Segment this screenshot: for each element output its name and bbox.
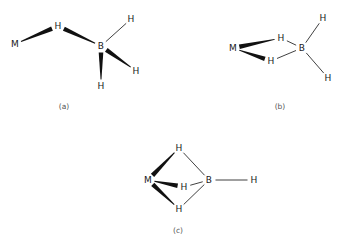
bond-b-H-B-2	[287, 41, 296, 45]
atom-label-a-Hb: H	[55, 21, 62, 31]
atom-label-b-Ht2: H	[325, 73, 332, 83]
bond-layer	[21, 23, 324, 205]
atom-label-a-B: B	[98, 41, 104, 51]
caption-c: (c)	[173, 226, 183, 235]
bond-b-M-H-0	[239, 39, 275, 49]
bond-c-H-B-4	[190, 182, 202, 185]
bond-b-M-H-1	[239, 50, 266, 61]
bond-b-H-B-3	[277, 51, 296, 59]
bond-c-H-B-3	[183, 153, 204, 176]
atom-label-c-Ht1: H	[251, 175, 258, 185]
atom-label-c-Hb2: H	[181, 182, 188, 192]
caption-a: (a)	[59, 102, 70, 111]
bond-a-B-H-4	[99, 53, 104, 80]
atom-label-c-B: B	[206, 175, 212, 185]
caption-b: (b)	[275, 102, 286, 111]
bond-b-B-H-4	[306, 23, 320, 42]
bond-a-H-B-1	[63, 27, 95, 44]
atom-label-b-M: M	[229, 43, 237, 53]
bond-b-B-H-5	[306, 53, 323, 73]
atom-label-a-Ht2: H	[133, 66, 140, 76]
atom-label-b-Hb2: H	[268, 56, 275, 66]
atom-label-a-Ht3: H	[98, 81, 105, 91]
bond-a-B-H-3	[105, 48, 131, 68]
atom-label-b-B: B	[299, 43, 305, 53]
atom-label-a-Ht1: H	[128, 14, 135, 24]
caption-layer: (a)(b)(c)	[59, 102, 286, 235]
bond-c-M-H-0	[151, 152, 175, 177]
atom-label-b-Ht1: H	[320, 13, 327, 23]
structure-canvas: MHBHHHMHHBHHMHHHBH (a)(b)(c)	[0, 0, 347, 245]
atom-label-c-Hb3: H	[176, 204, 183, 214]
bond-a-M-H-0	[21, 26, 53, 42]
atom-label-c-Hb1: H	[176, 143, 183, 153]
atom-label-a-M: M	[11, 39, 19, 49]
bond-a-B-H-2	[106, 23, 126, 41]
atom-label-b-Hb1: H	[278, 33, 285, 43]
atom-label-c-M: M	[144, 175, 152, 185]
